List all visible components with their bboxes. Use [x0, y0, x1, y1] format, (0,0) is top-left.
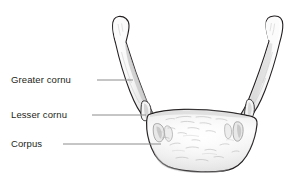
corpus-body	[147, 109, 257, 173]
hyoid-bone-illustration	[0, 0, 299, 186]
label-greater-cornu: Greater cornu	[11, 74, 71, 85]
corpus-right-fossa	[225, 122, 244, 141]
left-greater-cornu	[113, 16, 156, 121]
right-greater-cornu	[239, 16, 283, 120]
label-lesser-cornu: Lesser cornu	[11, 109, 67, 120]
figure-canvas: Greater cornu Lesser cornu Corpus	[0, 0, 299, 186]
label-corpus: Corpus	[11, 138, 42, 149]
